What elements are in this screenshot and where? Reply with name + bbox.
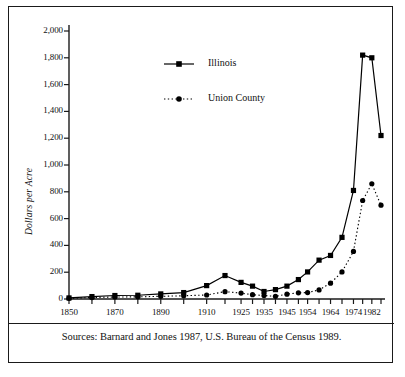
data-point-marker: [360, 198, 365, 203]
data-point-marker: [238, 291, 243, 296]
x-tick-label: 1982: [352, 307, 392, 317]
data-point-marker: [360, 53, 365, 58]
data-point-marker: [378, 133, 383, 138]
y-tick-label: 1,600: [21, 79, 63, 89]
data-point-marker: [305, 269, 310, 274]
legend-label-illinois: Illinois: [208, 57, 236, 68]
data-point-marker: [112, 294, 117, 299]
chart-canvas: [9, 7, 394, 307]
x-tick-label: 1870: [95, 307, 135, 317]
data-point-marker: [261, 293, 266, 298]
data-point-marker: [351, 249, 356, 254]
y-tick-label: 1,800: [21, 52, 63, 62]
data-point-marker: [316, 287, 321, 292]
data-point-marker: [378, 203, 383, 208]
data-point-marker: [369, 55, 374, 60]
data-point-marker: [89, 295, 94, 300]
data-point-marker: [316, 258, 321, 263]
data-point-marker: [250, 292, 255, 297]
data-point-marker: [181, 293, 186, 298]
data-point-marker: [296, 277, 301, 282]
data-point-marker: [222, 273, 227, 278]
data-point-marker: [238, 280, 243, 285]
legend-swatch-marker: [176, 61, 182, 67]
y-tick-label: 1,400: [21, 105, 63, 115]
data-point-marker: [328, 253, 333, 258]
data-point-marker: [339, 235, 344, 240]
x-tick-label: 1850: [49, 307, 89, 317]
y-tick-label: 200: [21, 266, 63, 276]
data-point-marker: [204, 292, 209, 297]
y-tick-label: 0: [21, 293, 63, 303]
y-tick-label: 400: [21, 239, 63, 249]
caption-divider: [9, 323, 394, 324]
chart-plot-area: Dollars per Acre 02004006008001,0001,200…: [9, 7, 394, 307]
data-point-marker: [204, 283, 209, 288]
data-point-marker: [296, 290, 301, 295]
data-point-marker: [222, 289, 227, 294]
figure-frame: Dollars per Acre 02004006008001,0001,200…: [8, 6, 393, 363]
y-tick-label: 1,000: [21, 159, 63, 169]
data-point-marker: [351, 188, 356, 193]
data-point-marker: [339, 269, 344, 274]
legend-swatch-marker: [176, 96, 182, 102]
data-point-marker: [273, 294, 278, 299]
y-tick-label: 600: [21, 213, 63, 223]
y-tick-label: 1,200: [21, 132, 63, 142]
data-point-marker: [328, 281, 333, 286]
data-point-marker: [305, 290, 310, 295]
data-point-marker: [250, 284, 255, 289]
data-point-marker: [273, 287, 278, 292]
y-tick-label: 800: [21, 186, 63, 196]
data-point-marker: [369, 181, 374, 186]
data-point-marker: [66, 296, 71, 301]
source-caption: Sources: Barnard and Jones 1987, U.S. Bu…: [9, 331, 394, 342]
series-line-union-county: [69, 184, 381, 299]
x-tick-label: 1890: [141, 307, 181, 317]
legend-label-union-county: Union County: [208, 92, 265, 103]
data-point-marker: [284, 292, 289, 297]
data-point-marker: [135, 294, 140, 299]
data-point-marker: [158, 294, 163, 299]
y-tick-label: 2,000: [21, 25, 63, 35]
data-point-marker: [284, 284, 289, 289]
